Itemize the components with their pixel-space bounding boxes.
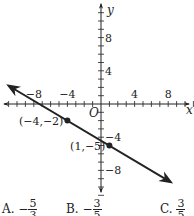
choice-sign: − [18,202,28,216]
choice-a[interactable]: A. −53 [2,198,37,216]
x-tick-label: −8 [26,88,42,101]
choice-c[interactable]: C. 35 [160,198,185,216]
coordinate-plane: −8−44884−4−8yxO (−4,−2)(1,−5) [0,0,194,200]
y-tick-label: −8 [105,164,121,177]
choice-fraction: 35 [93,198,102,216]
y-axis-label: y [106,3,114,17]
choice-sign: − [82,202,92,216]
choice-b[interactable]: B. −35 [66,198,102,216]
choice-letter: B. [66,202,79,216]
series-line [9,86,171,182]
y-tick-label: 8 [105,32,112,45]
point-label: (−4,−2) [19,115,64,128]
y-tick-label: 4 [105,65,112,78]
x-tick-label: 4 [131,88,138,101]
choice-letter: C. [160,202,173,216]
answer-choices: A. −53 B. −35 C. 35 [0,198,194,216]
x-axis-label: x [186,103,193,117]
x-tick-label: 8 [165,88,172,101]
choice-letter: A. [2,202,14,216]
y-tick-label: −4 [105,131,121,144]
choice-fraction: 35 [176,198,185,216]
data-point [106,143,112,149]
data-point [64,118,70,124]
tick-labels: −8−44884−4−8yxO [26,3,193,177]
origin-label: O [89,106,99,120]
x-tick-label: −4 [59,88,75,101]
point-label: (1,−5) [70,140,105,153]
choice-fraction: 53 [28,198,37,216]
data-line [9,86,171,182]
